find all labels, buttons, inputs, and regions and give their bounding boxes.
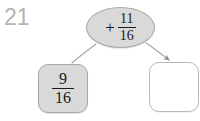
output-box[interactable] (149, 62, 199, 112)
output-connector-path (146, 43, 169, 60)
input-fraction: 9 16 (52, 71, 74, 106)
input-fraction-denominator: 16 (53, 89, 73, 106)
operator-fraction: 11 16 (118, 12, 136, 43)
operator-node[interactable]: + 11 16 (86, 7, 155, 48)
input-connector-path (72, 44, 96, 63)
plus-icon: + (105, 19, 115, 37)
worksheet-problem-canvas: 21 + 11 16 9 16 (0, 0, 200, 121)
input-fraction-numerator: 9 (57, 71, 69, 88)
operator-fraction-denominator: 16 (118, 28, 136, 43)
input-box[interactable]: 9 16 (38, 64, 88, 113)
operator-fraction-numerator: 11 (118, 12, 135, 27)
